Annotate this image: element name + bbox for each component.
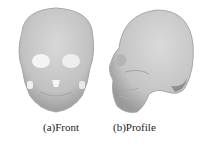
skull-front-render	[12, 4, 100, 114]
caption-profile: (b)Profile	[113, 121, 156, 133]
skull-profile-image	[105, 8, 195, 114]
caption-front: (a)Front	[43, 121, 79, 133]
skull-front-image	[12, 4, 100, 114]
skull-profile-render	[105, 8, 195, 114]
